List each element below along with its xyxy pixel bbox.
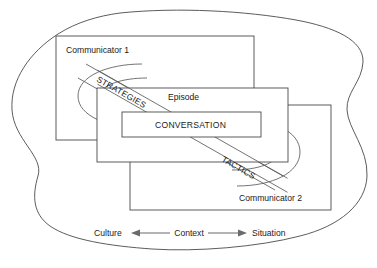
conversation-label: CONVERSATION xyxy=(155,120,226,130)
axis-center-label: Context xyxy=(174,228,204,238)
arrow-left-icon xyxy=(131,230,140,237)
episode-label: Episode xyxy=(168,92,199,102)
communicator1-label: Communicator 1 xyxy=(66,45,129,55)
diagram-root: Communicator 1 Episode CONVERSATION Comm… xyxy=(0,0,377,268)
communication-model-diagram: Communicator 1 Episode CONVERSATION Comm… xyxy=(0,0,377,268)
axis-right-label: Situation xyxy=(252,228,286,238)
communicator2-label: Communicator 2 xyxy=(239,193,302,203)
axis-left-label: Culture xyxy=(94,228,122,238)
arrow-right-icon xyxy=(238,230,247,237)
